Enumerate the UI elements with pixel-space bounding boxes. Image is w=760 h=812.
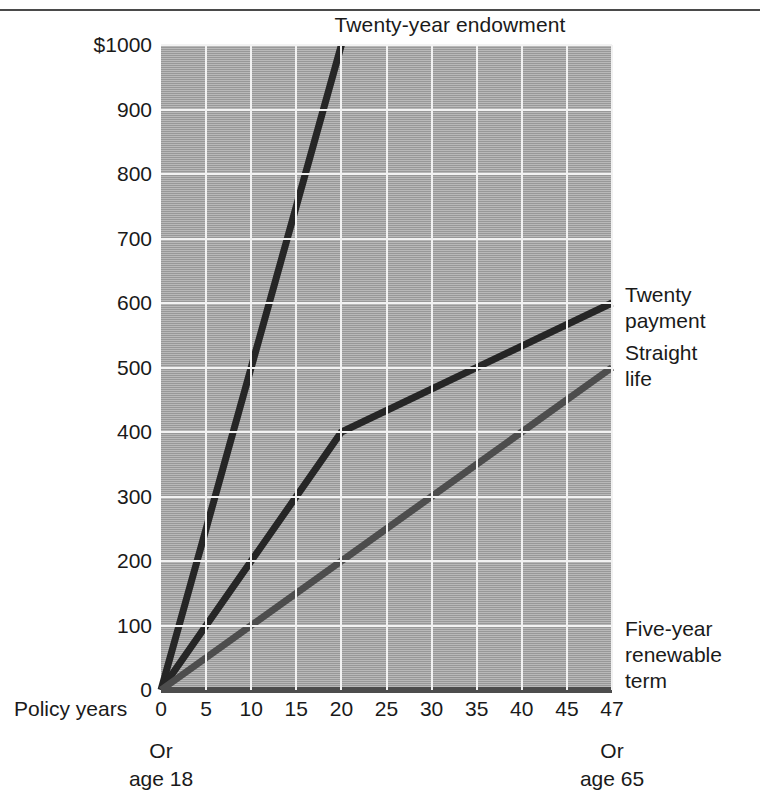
x-axis: Policy years 05101520253035404547 bbox=[0, 697, 760, 725]
gridline-vertical bbox=[295, 45, 297, 690]
y-axis-tick-label: 700 bbox=[2, 228, 152, 249]
y-axis-tick-label: 100 bbox=[2, 615, 152, 636]
x-axis-title: Policy years bbox=[14, 697, 127, 721]
gridline-vertical bbox=[386, 45, 388, 690]
y-axis-tick-label: 300 bbox=[2, 486, 152, 507]
y-axis: 0100200300400500600700800900$1000 bbox=[0, 0, 152, 812]
series-label-straight-life: Straight life bbox=[625, 340, 697, 392]
gridline-vertical bbox=[566, 45, 568, 690]
y-axis-tick-label: 200 bbox=[2, 550, 152, 571]
chart-figure: Twenty-year endowment 010020030040050060… bbox=[0, 0, 760, 812]
x-axis-tick-label: 47 bbox=[582, 697, 642, 721]
y-axis-tick-label: 900 bbox=[2, 99, 152, 120]
series-label-five-year-renewable-term: Five-year renewable term bbox=[625, 616, 722, 694]
gridline-vertical bbox=[431, 45, 433, 690]
gridline-vertical bbox=[476, 45, 478, 690]
series-label-twenty-payment: Twenty payment bbox=[625, 282, 706, 334]
y-axis-tick-label: 400 bbox=[2, 421, 152, 442]
gridline-vertical bbox=[521, 45, 523, 690]
y-axis-tick-label: 500 bbox=[2, 357, 152, 378]
left-age-note: Or age 18 bbox=[71, 737, 251, 793]
y-axis-tick-label: 600 bbox=[2, 292, 152, 313]
gridline-vertical bbox=[205, 45, 207, 690]
gridline-vertical bbox=[611, 45, 613, 690]
right-age-note: Or age 65 bbox=[522, 737, 702, 793]
gridline-vertical bbox=[250, 45, 252, 690]
plot-area bbox=[161, 45, 612, 690]
gridline-vertical bbox=[340, 45, 342, 690]
y-axis-tick-label: 800 bbox=[2, 163, 152, 184]
y-axis-tick-label: $1000 bbox=[2, 34, 152, 55]
chart-title: Twenty-year endowment bbox=[160, 13, 740, 37]
